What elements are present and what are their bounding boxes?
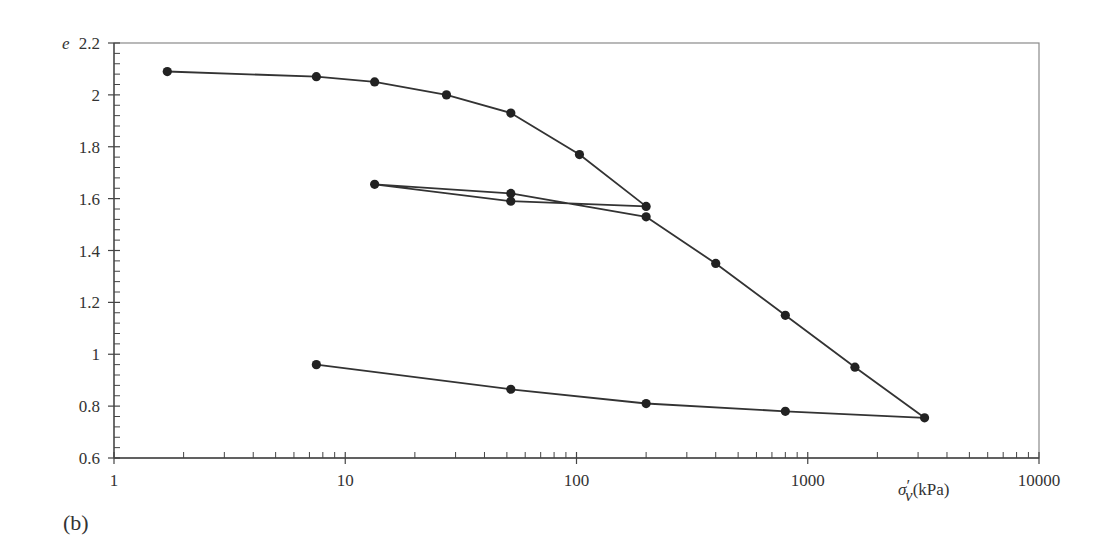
data-point-marker bbox=[642, 212, 651, 221]
data-point-marker bbox=[642, 399, 651, 408]
y-tick-label: 1.6 bbox=[79, 190, 100, 209]
data-point-marker bbox=[370, 77, 379, 86]
y-tick-label: 0.8 bbox=[79, 397, 100, 416]
data-point-marker bbox=[920, 413, 929, 422]
y-tick-label: 1.4 bbox=[79, 242, 101, 261]
data-point-marker bbox=[781, 407, 790, 416]
panel-label: (b) bbox=[63, 510, 89, 535]
x-tick-label: 100 bbox=[564, 471, 590, 490]
data-point-marker bbox=[850, 363, 859, 372]
data-point-marker bbox=[711, 259, 720, 268]
data-point-marker bbox=[575, 150, 584, 159]
x-tick-label: 10000 bbox=[1018, 471, 1061, 490]
data-point-marker bbox=[506, 385, 515, 394]
data-point-marker bbox=[163, 67, 172, 76]
data-series bbox=[163, 67, 929, 422]
data-point-marker bbox=[312, 360, 321, 369]
data-point-marker bbox=[442, 90, 451, 99]
data-point-marker bbox=[370, 180, 379, 189]
x-axis-title-unit: (kPa) bbox=[913, 480, 950, 499]
x-tick-label: 1 bbox=[110, 471, 119, 490]
y-tick-label: 1 bbox=[92, 345, 101, 364]
data-point-marker bbox=[312, 72, 321, 81]
x-axis-title: σ′v(kPa) bbox=[898, 476, 949, 505]
data-point-marker bbox=[781, 311, 790, 320]
series-line bbox=[167, 72, 924, 418]
y-tick-label: 2.2 bbox=[79, 34, 100, 53]
y-tick-label: 1.8 bbox=[79, 138, 100, 157]
x-tick-label: 1000 bbox=[791, 471, 825, 490]
y-axis: 0.60.811.21.41.61.822.2 bbox=[79, 34, 120, 468]
e-log-stress-chart: 110100100010000 0.60.811.21.41.61.822.2 … bbox=[0, 0, 1106, 550]
data-point-marker bbox=[506, 108, 515, 117]
data-point-marker bbox=[506, 189, 515, 198]
y-tick-label: 2 bbox=[92, 86, 101, 105]
x-tick-label: 10 bbox=[337, 471, 354, 490]
y-axis-title: e bbox=[62, 34, 70, 53]
y-tick-label: 1.2 bbox=[79, 293, 100, 312]
y-tick-label: 0.6 bbox=[79, 449, 100, 468]
data-point-marker bbox=[642, 202, 651, 211]
